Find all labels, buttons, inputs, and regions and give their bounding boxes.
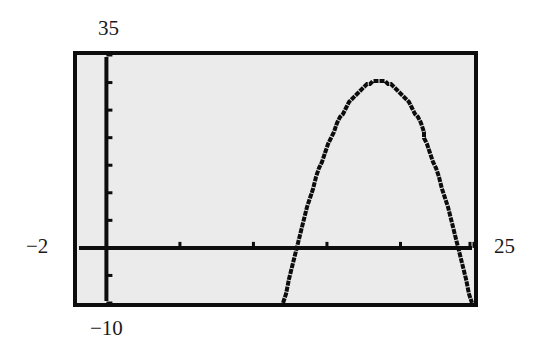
graph-screen [73,51,478,307]
xmin-label: −2 [26,236,48,257]
xmax-label: 25 [494,236,515,257]
plot-area [73,51,478,307]
screen-frame [75,53,476,305]
ymin-label: −10 [90,318,123,339]
ymax-label: 35 [98,18,119,39]
